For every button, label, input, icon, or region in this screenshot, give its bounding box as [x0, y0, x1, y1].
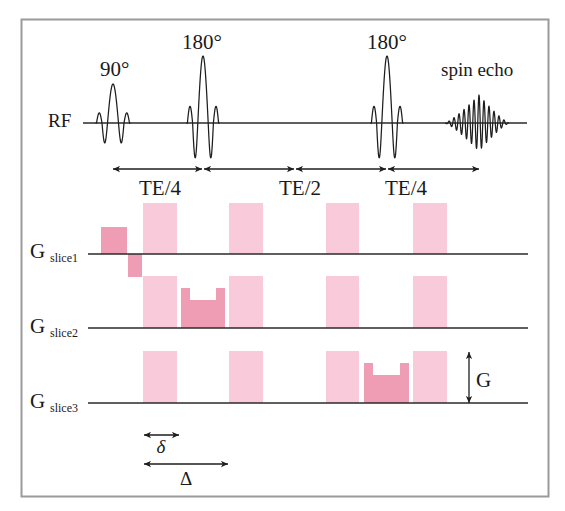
rf-pulse-180-2-label: 180° [367, 30, 407, 54]
slice-rephase-lobe [128, 254, 142, 277]
gradient-label: G [30, 239, 45, 263]
diagram-canvas: RF 90° 180° 180° spin echo TE/4 TE/2 TE/… [0, 0, 565, 511]
gradient-label: G [30, 389, 45, 413]
te-quarter-1-label: TE/4 [139, 176, 181, 200]
slice-select-lobe [101, 227, 127, 254]
gradient-amplitude-label: G [476, 368, 491, 392]
large-delta-label: Δ [180, 468, 192, 489]
rf-pulse-90-label: 90° [100, 57, 129, 81]
gradient-subscript: slice3 [50, 401, 78, 415]
diffusion-gradient-lobe [413, 203, 447, 254]
diffusion-gradient-lobe [143, 276, 177, 328]
pulse-sequence-diagram: RF 90° 180° 180° spin echo TE/4 TE/2 TE/… [0, 0, 565, 511]
spin-echo-waveform [445, 95, 509, 148]
gradient-subscript: slice2 [50, 326, 78, 340]
rf-pulse-90-waveform [96, 84, 131, 143]
gradient-subscript: slice1 [50, 251, 78, 265]
te-quarter-2-label: TE/4 [385, 176, 427, 200]
spin-echo-label: spin echo [441, 59, 513, 80]
diffusion-gradient-lobe [413, 351, 447, 403]
diffusion-gradient-lobe [229, 276, 263, 328]
diffusion-gradient-lobe [326, 203, 359, 254]
crusher-slice-gradient [364, 363, 409, 403]
echo-time-intervals: TE/4 TE/2 TE/4 [113, 169, 479, 200]
diffusion-gradient-lobe [326, 351, 359, 403]
gradient-label: G [30, 314, 45, 338]
gradient-row-slice2: G slice2 [30, 276, 528, 340]
diffusion-timing: δ Δ [144, 435, 228, 489]
crusher-slice-gradient [181, 288, 225, 328]
rf-pulse-180-1-label: 180° [182, 30, 222, 54]
diffusion-gradient-lobe [413, 276, 447, 328]
diffusion-gradient-lobe [229, 351, 263, 403]
gradient-row-slice1: G slice1 [30, 203, 528, 277]
rf-pulse-180-2-waveform [370, 56, 403, 158]
te-half-label: TE/2 [279, 176, 321, 200]
gradient-row-slice3: G slice3 G [30, 351, 528, 415]
figure-frame [22, 20, 549, 497]
small-delta-label: δ [157, 436, 167, 457]
rf-row: RF 90° 180° 180° spin echo [48, 30, 527, 158]
diffusion-gradient-lobe [143, 351, 177, 403]
rf-pulse-180-1-waveform [186, 56, 219, 158]
diffusion-gradient-lobe [143, 203, 177, 254]
diffusion-gradient-lobe [229, 203, 263, 254]
diffusion-gradient-lobe [326, 276, 359, 328]
rf-label: RF [48, 110, 71, 131]
